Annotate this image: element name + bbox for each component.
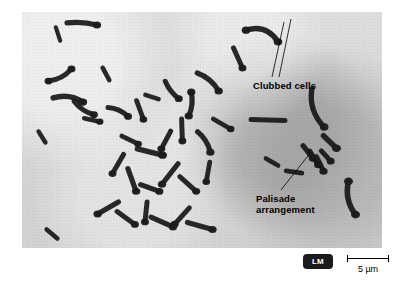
bacterial-cell xyxy=(56,27,60,40)
bacterial-cell xyxy=(347,181,355,214)
cell-club-end xyxy=(131,221,139,228)
cell-club-end xyxy=(208,226,216,233)
bacterial-cell xyxy=(246,29,278,42)
bacterial-cell xyxy=(53,96,83,102)
bacterial-cell xyxy=(47,230,58,239)
cell-club-end xyxy=(320,123,329,130)
cell-club-end xyxy=(67,65,75,72)
bacterial-cell xyxy=(103,68,110,80)
cell-club-end xyxy=(93,210,101,217)
bacterial-cell xyxy=(266,159,278,166)
bacterial-cell xyxy=(286,171,302,173)
cell-club-end xyxy=(202,179,210,186)
cell-club-end xyxy=(157,145,165,152)
cell-club-end xyxy=(141,219,149,226)
bacterial-cell xyxy=(162,164,178,184)
cell-club-end xyxy=(158,151,167,158)
cell-club-end xyxy=(124,113,132,120)
cell-club-end xyxy=(215,87,223,94)
cell-club-end xyxy=(140,116,148,123)
cell-club-end xyxy=(155,188,163,195)
bacterial-cell xyxy=(128,169,136,192)
cell-club-end xyxy=(227,126,235,133)
cell-club-end xyxy=(45,78,53,85)
bacterial-cell xyxy=(67,22,97,25)
cell-club-end xyxy=(175,95,183,102)
cell-club-end xyxy=(185,112,193,119)
cell-club-end xyxy=(351,211,360,219)
bacterial-cell xyxy=(39,131,46,142)
scale-bar: 5 µm xyxy=(347,255,389,277)
bacterial-cell xyxy=(311,89,324,127)
cell-club-end xyxy=(238,65,246,72)
scale-bar-line xyxy=(347,258,389,259)
cell-club-end xyxy=(332,144,341,152)
scale-bar-cap-right xyxy=(388,255,389,262)
cell-club-end xyxy=(192,188,200,195)
scale-bar-label: 5 µm xyxy=(347,264,389,274)
cell-club-end xyxy=(187,89,195,96)
cell-club-end xyxy=(96,119,103,125)
bacterial-cell xyxy=(197,73,218,91)
cell-club-end xyxy=(90,111,98,118)
cell-club-end xyxy=(319,168,327,175)
cell-club-end xyxy=(178,138,186,145)
bacterial-cells-layer xyxy=(22,12,382,248)
micrograph-image xyxy=(22,12,382,248)
cell-club-end xyxy=(344,178,353,186)
micrograph-figure: Clubbed cells Palisade arrangement LM 5 … xyxy=(0,0,397,282)
cell-club-end xyxy=(171,221,179,228)
bacterial-cell xyxy=(145,95,158,99)
cell-club-end xyxy=(158,181,166,188)
annotation-palisade-arrangement: Palisade arrangement xyxy=(256,193,315,215)
cell-club-end xyxy=(274,38,283,45)
light-microscopy-badge: LM xyxy=(303,254,333,269)
cell-club-end xyxy=(109,170,117,177)
cell-club-end xyxy=(132,188,140,195)
cell-club-end xyxy=(327,158,335,165)
cell-club-end xyxy=(93,22,101,29)
annotation-clubbed-cells: Clubbed cells xyxy=(253,80,316,91)
cell-club-end xyxy=(134,141,142,148)
cell-club-end xyxy=(242,27,251,34)
bacterial-cell xyxy=(49,69,72,81)
cell-club-end xyxy=(206,149,214,156)
bacterial-cell xyxy=(189,92,192,116)
bacterial-cell xyxy=(251,119,285,120)
